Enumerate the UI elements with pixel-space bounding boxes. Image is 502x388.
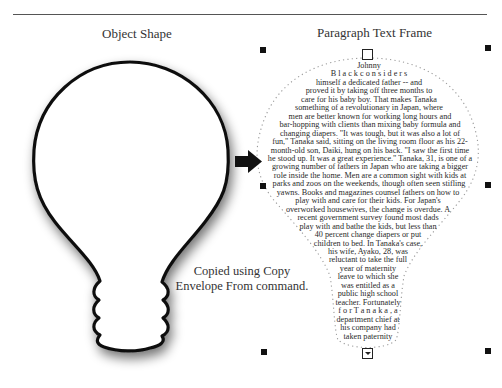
text-overflow-handle-icon[interactable] xyxy=(362,348,373,359)
selection-handle-middle-left[interactable] xyxy=(260,183,266,189)
selection-handle-middle-right[interactable] xyxy=(485,182,491,188)
selection-handle-top-right[interactable] xyxy=(485,45,491,51)
selection-handle-top-left[interactable] xyxy=(260,47,266,53)
selection-handle-bottom-right[interactable] xyxy=(485,348,491,354)
selection-handle-bottom-left[interactable] xyxy=(261,349,267,355)
caption: Copied using Copy Envelope From command. xyxy=(170,264,314,294)
paragraph-line: taken paternity xyxy=(344,332,393,342)
caption-line-2: Envelope From command. xyxy=(170,279,314,294)
caption-line-1: Copied using Copy xyxy=(170,264,314,279)
lightbulb-shape-icon xyxy=(34,62,229,351)
top-center-empty-handle[interactable] xyxy=(362,49,373,60)
right-arrow-icon xyxy=(235,150,262,173)
